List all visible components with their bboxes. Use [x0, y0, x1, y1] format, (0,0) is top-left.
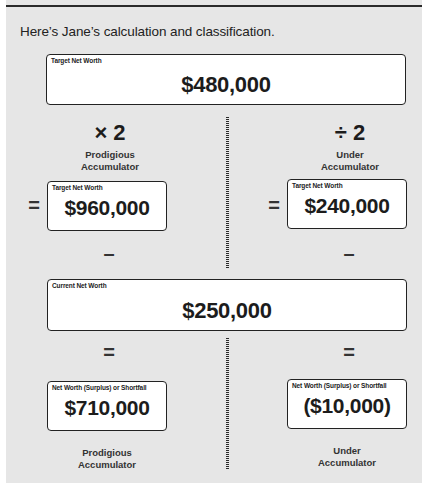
intro-text: Here’s Jane’s calculation and classifica… — [20, 24, 275, 39]
right-minus-sign: – — [337, 242, 361, 265]
left-shortfall-label: Net Worth (Surplus) or Shortfall — [52, 384, 147, 391]
left-shortfall-value: $710,000 — [48, 396, 166, 420]
right-shortfall-value: ($10,000) — [288, 394, 406, 418]
right-classification-line-1: Under — [287, 445, 407, 457]
left-classification: Prodigious Accumulator — [47, 447, 167, 471]
target-net-worth-value: $480,000 — [47, 72, 405, 98]
left-target-box: Target Net Worth $960,000 — [47, 181, 167, 231]
left-shortfall-box: Net Worth (Surplus) or Shortfall $710,00… — [47, 381, 167, 431]
right-category-line-2: Accumulator — [290, 161, 410, 173]
right-shortfall-box: Net Worth (Surplus) or Shortfall ($10,00… — [287, 379, 407, 429]
top-divider — [6, 5, 422, 7]
right-equals-sign-2: = — [337, 341, 361, 364]
current-net-worth-value: $250,000 — [48, 298, 406, 324]
target-net-worth-box: Target Net Worth $480,000 — [46, 54, 406, 105]
right-target-label: Target Net Worth — [292, 182, 343, 189]
multiply-operator: × 2 — [60, 120, 160, 146]
left-minus-sign: – — [97, 242, 121, 265]
right-target-box: Target Net Worth $240,000 — [287, 179, 407, 229]
column-divider-top — [226, 117, 229, 269]
left-classification-line-1: Prodigious — [47, 447, 167, 459]
right-category-label: Under Accumulator — [290, 149, 410, 173]
target-net-worth-label: Target Net Worth — [51, 57, 102, 64]
left-classification-line-2: Accumulator — [47, 459, 167, 471]
column-divider-bottom — [226, 338, 229, 470]
left-category-line-1: Prodigious — [50, 149, 170, 161]
left-equals-sign: = — [24, 194, 44, 217]
right-equals-sign: = — [264, 194, 284, 217]
right-target-value: $240,000 — [288, 194, 406, 218]
left-category-line-2: Accumulator — [50, 161, 170, 173]
current-net-worth-label: Current Net Worth — [52, 282, 107, 289]
left-target-label: Target Net Worth — [52, 184, 103, 191]
left-category-label: Prodigious Accumulator — [50, 149, 170, 173]
right-category-line-1: Under — [290, 149, 410, 161]
right-shortfall-label: Net Worth (Surplus) or Shortfall — [292, 382, 387, 389]
current-net-worth-box: Current Net Worth $250,000 — [47, 279, 407, 331]
left-equals-sign-2: = — [97, 341, 121, 364]
left-target-value: $960,000 — [48, 196, 166, 220]
right-classification: Under Accumulator — [287, 445, 407, 469]
right-classification-line-2: Accumulator — [287, 457, 407, 469]
divide-operator: ÷ 2 — [300, 120, 400, 146]
